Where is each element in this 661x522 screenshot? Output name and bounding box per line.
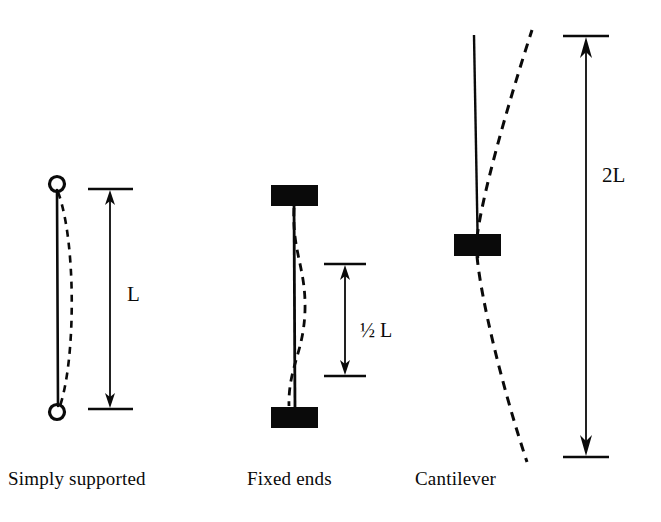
column-axis-fixed-ends [294, 204, 295, 410]
caption-cantilever: Cantilever [415, 468, 496, 490]
buckled-shape-cantilever-lower [477, 256, 527, 462]
case-simply-supported [50, 177, 134, 420]
dimension-2L [563, 36, 609, 457]
column-buckling-diagram [0, 0, 661, 522]
buckled-shape-cantilever-upper [477, 30, 532, 238]
fixed-support-top-icon [271, 185, 318, 206]
fixed-support-bottom-icon [271, 407, 318, 428]
column-axis-cantilever [474, 35, 478, 258]
figure-canvas: L ½ L 2L Simply supported Fixed ends Can… [0, 0, 661, 522]
column-axis-simply-supported [57, 190, 58, 406]
case-fixed-ends [271, 185, 366, 428]
caption-simply-supported: Simply supported [8, 468, 146, 490]
buckled-shape-simply-supported [58, 192, 72, 406]
dimension-label-half-L: ½ L [360, 319, 392, 342]
caption-fixed-ends: Fixed ends [247, 468, 332, 490]
buckled-shape-fixed-ends [289, 208, 305, 406]
case-cantilever [454, 30, 609, 462]
dimension-label-L: L [127, 282, 140, 307]
dimension-label-2L: 2L [602, 163, 625, 188]
